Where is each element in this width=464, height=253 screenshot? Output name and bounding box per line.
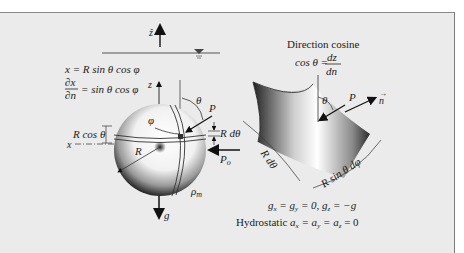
phi-label: φ (148, 114, 154, 126)
r-cos-theta-label: R cos θ (72, 128, 106, 140)
cos-denominator: dn (326, 65, 338, 77)
cos-lhs: cos θ = (295, 56, 328, 68)
patch-theta-label: θ (322, 94, 328, 106)
z-axis-label: z (147, 79, 152, 90)
direction-cosine-title: Direction cosine (287, 38, 360, 50)
gravity-equation: gx = gy = 0, gz = −g (268, 199, 357, 213)
hydrostatic-equation: Hydrostatic ax = ay = az = 0 (236, 216, 359, 230)
z-hat-arrow: ẑ (148, 26, 160, 47)
radius-label: R (134, 145, 142, 157)
pressure-label: Po (219, 153, 231, 167)
equation-x: x = R sin θ cos φ (64, 63, 140, 75)
normal-vector-arrow: → (379, 89, 387, 98)
sphere (114, 104, 206, 196)
cos-numerator: dz (327, 51, 338, 63)
free-surface (102, 49, 220, 58)
patch-point-label: P (348, 91, 356, 103)
z-hat-label: ẑ (148, 27, 153, 38)
r-dtheta-label: R dθ (219, 127, 241, 139)
density-label: ρm (190, 185, 202, 199)
derivative-numerator: ∂x (65, 76, 75, 88)
derivative-rhs: = sin θ cos φ (81, 83, 138, 95)
derivative-denominator: ∂n (65, 89, 76, 101)
x-axis-label: x (66, 139, 72, 150)
gravity-label: g (164, 209, 170, 221)
theta-label: θ (196, 94, 202, 106)
point-p-label: P (208, 102, 216, 114)
